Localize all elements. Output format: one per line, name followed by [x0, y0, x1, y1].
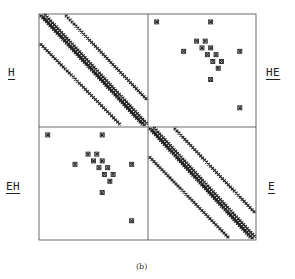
label-e: E [268, 180, 275, 193]
label-eh: EH [6, 180, 20, 193]
figure-caption: (b) [136, 262, 147, 271]
sparse-matrix-figure [0, 0, 295, 279]
label-h: H [8, 66, 15, 79]
label-he: HE [266, 66, 280, 79]
